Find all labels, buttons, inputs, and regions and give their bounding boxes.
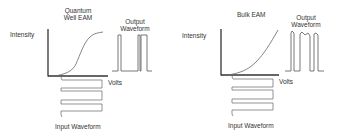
- x-axis-label: Volts: [279, 78, 293, 85]
- input-waveform-label: Input Waveform: [228, 122, 274, 129]
- transfer-curve: [55, 32, 103, 76]
- input-waveform-label: Input Waveform: [55, 123, 101, 130]
- output-waveform-label: Output Waveform: [288, 14, 324, 28]
- output-label-line-1: Output: [117, 18, 153, 25]
- output-waveform: [285, 31, 324, 71]
- output-label-line-2: Waveform: [288, 21, 324, 28]
- y-axis-label: Intensity: [182, 32, 206, 39]
- transfer-curve: [228, 30, 278, 75]
- panel-title-bulk: Bulk EAM: [237, 11, 266, 18]
- input-waveform: [61, 76, 102, 117]
- panel-bulk: [221, 29, 324, 116]
- title-line-1: Quantum: [58, 7, 98, 14]
- output-label-line-2: Waveform: [117, 25, 153, 32]
- output-label-line-1: Output: [288, 14, 324, 21]
- y-axis-label: Intensity: [10, 31, 34, 38]
- x-axis-label: Volts: [108, 79, 122, 86]
- panel-title-quantum-well: Quantum Well EAM: [58, 7, 98, 21]
- output-waveform: [112, 35, 152, 71]
- panel-quantum-well: [48, 29, 152, 117]
- input-waveform: [232, 75, 273, 116]
- title-line-2: Well EAM: [58, 14, 98, 21]
- output-waveform-label: Output Waveform: [117, 18, 153, 32]
